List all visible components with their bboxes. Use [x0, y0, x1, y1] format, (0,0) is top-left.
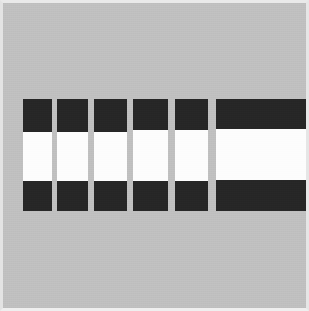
bar-5 — [175, 99, 208, 211]
bar-1 — [23, 99, 52, 211]
bar-3 — [94, 99, 127, 211]
bar-1-top-dark-band — [23, 99, 52, 132]
bar-1-middle-light-band — [23, 132, 52, 181]
bar-3-middle-light-band — [94, 132, 127, 181]
bar-5-bottom-dark-band — [175, 181, 208, 211]
bar-2-top-dark-band — [57, 99, 88, 132]
bar-3-top-dark-band — [94, 99, 127, 132]
bar-4-bottom-dark-band — [133, 181, 168, 211]
bar-5-middle-light-band — [175, 130, 208, 181]
bar-3-bottom-dark-band — [94, 181, 127, 211]
bar-2 — [57, 99, 88, 211]
bar-4 — [133, 99, 168, 211]
bar-6-wide — [216, 99, 309, 211]
bar-2-bottom-dark-band — [57, 181, 88, 211]
bar-2-middle-light-band — [57, 132, 88, 181]
bar-6-wide-middle-light-band — [216, 129, 309, 180]
bar-6-wide-bottom-dark-band — [216, 180, 309, 211]
bar-4-top-dark-band — [133, 99, 168, 130]
image-canvas — [0, 0, 309, 311]
bar-6-wide-top-dark-band — [216, 99, 309, 129]
bar-5-top-dark-band — [175, 99, 208, 130]
bar-1-bottom-dark-band — [23, 181, 52, 211]
bar-4-middle-light-band — [133, 130, 168, 181]
